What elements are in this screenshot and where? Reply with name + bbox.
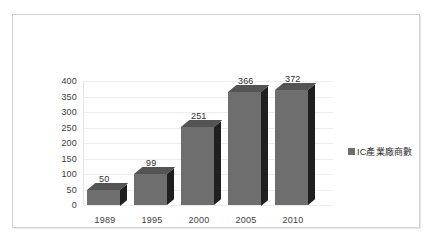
- x-tick-label: 1995: [141, 215, 162, 225]
- x-tick-label: 2005: [235, 215, 256, 225]
- y-tick-label: 250: [61, 123, 77, 133]
- y-tick-label: 50: [67, 185, 77, 195]
- gridline-0: 0: [83, 205, 333, 206]
- bar-column[interactable]: 99: [134, 174, 167, 205]
- y-tick-label: 200: [61, 138, 77, 148]
- plot-area: 400 350 300 250 200 150 100 50: [83, 81, 333, 205]
- chart-screenshot: 400 350 300 250 200 150 100 50: [0, 0, 435, 242]
- bar-column[interactable]: 251: [181, 127, 214, 205]
- bar-value-label: 251: [191, 111, 207, 121]
- bar-column[interactable]: 372: [275, 90, 308, 205]
- chart-legend: IC產業廠商數: [348, 145, 412, 158]
- x-tick-label: 1989: [94, 215, 115, 225]
- y-tick-label: 0: [72, 200, 77, 210]
- y-tick-label: 400: [61, 76, 77, 86]
- bar-value-label: 366: [238, 76, 254, 86]
- bar-value-label: 99: [146, 158, 156, 168]
- bar-column[interactable]: 50: [87, 190, 120, 206]
- bar-front-face: [134, 174, 167, 205]
- bar-front-face: [87, 190, 120, 206]
- bar-side-face: [214, 121, 221, 205]
- bar-value-label: 372: [285, 74, 301, 84]
- bar-front-face: [228, 92, 261, 206]
- bar-front-face: [275, 90, 308, 205]
- legend-swatch-icon: [348, 148, 355, 155]
- legend-entry-label: IC產業廠商數: [357, 145, 412, 158]
- y-tick-label: 150: [61, 154, 77, 164]
- bar-side-face: [261, 86, 268, 205]
- y-tick-label: 350: [61, 92, 77, 102]
- bar-side-face: [167, 168, 174, 205]
- chart-frame: 400 350 300 250 200 150 100 50: [12, 14, 420, 228]
- bar-column[interactable]: 366: [228, 92, 261, 206]
- y-tick-label: 300: [61, 107, 77, 117]
- x-tick-label: 2010: [282, 215, 303, 225]
- bar-side-face: [308, 84, 315, 205]
- bar-front-face: [181, 127, 214, 205]
- x-tick-label: 2000: [188, 215, 209, 225]
- bar-value-label: 50: [99, 174, 109, 184]
- y-tick-label: 100: [61, 169, 77, 179]
